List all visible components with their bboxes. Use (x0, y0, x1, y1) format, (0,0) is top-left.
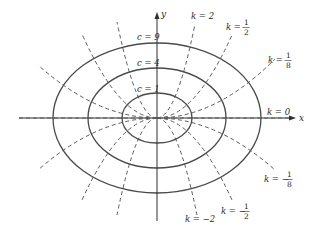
label-k-eighth-prefix: k = (268, 55, 283, 65)
orthogonal-trajectories-diagram: x y c = 9 c = 4 c = 1 k = 2 (0, 0, 314, 234)
label-k-half-prefix: k = (226, 22, 241, 32)
label-c1: c = 1 (137, 84, 160, 94)
label-k-neg-half-num: 1 (244, 202, 249, 211)
label-k-neg-half-prefix: k = − (221, 206, 246, 216)
level-curve-labels: c = 9 c = 4 c = 1 (137, 32, 160, 94)
label-k-half-den: 2 (244, 28, 249, 37)
trajectory-k-eighth-right (157, 59, 275, 118)
label-k-neg-eighth: k = − 1 8 (264, 170, 293, 189)
label-k0: k = 0 (267, 107, 291, 117)
label-k-neg-eighth-prefix: k = − (264, 174, 289, 184)
label-k-eighth-den: 8 (286, 61, 291, 70)
label-k-neg2: k = −2 (185, 214, 215, 224)
label-k-neg-half: k = − 1 2 (221, 202, 250, 221)
label-k-neg-half-den: 2 (244, 212, 249, 221)
y-axis-arrow-icon (155, 12, 160, 19)
label-k-eighth: k = 1 8 (268, 51, 292, 70)
label-k2: k = 2 (191, 11, 214, 21)
label-k-eighth-num: 1 (286, 51, 291, 60)
label-k-neg-eighth-num: 1 (287, 170, 292, 179)
trajectory-k2-right (157, 24, 195, 118)
label-k-neg-eighth-den: 8 (287, 180, 292, 189)
label-k-half: k = 1 2 (226, 18, 250, 37)
label-c9: c = 9 (137, 32, 160, 42)
label-k-half-num: 1 (244, 18, 249, 27)
label-c4: c = 4 (137, 58, 160, 68)
y-axis-label: y (160, 9, 167, 19)
x-axis-label: x (299, 113, 304, 123)
